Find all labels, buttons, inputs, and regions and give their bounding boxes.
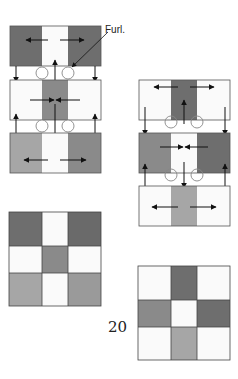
left-stack-row-3 bbox=[10, 133, 101, 173]
fold-circle-icon bbox=[62, 67, 74, 79]
right-stack bbox=[139, 80, 230, 226]
left-stack bbox=[10, 26, 108, 173]
right-grid bbox=[138, 266, 230, 360]
left-grid bbox=[9, 212, 101, 306]
furl-label: Furl. bbox=[105, 24, 125, 35]
fold-circle-icon bbox=[36, 67, 48, 79]
page-number: 20 bbox=[108, 318, 127, 336]
fold-circle-icon bbox=[36, 120, 48, 132]
right-stack-row-3 bbox=[139, 186, 230, 226]
fold-circle-icon bbox=[62, 120, 74, 132]
